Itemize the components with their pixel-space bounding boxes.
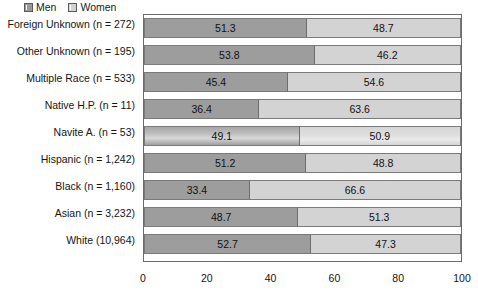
bar-segment-women[interactable]: 47.3: [311, 234, 461, 254]
bar-segment-women[interactable]: 48.8: [306, 153, 461, 173]
x-tick-0: 0: [140, 272, 146, 284]
bar-segment-women[interactable]: 66.6: [250, 180, 461, 200]
bar-segment-men[interactable]: 53.8: [144, 45, 315, 65]
legend-entry-women: Women: [68, 2, 116, 13]
legend-swatch-women-icon: [68, 3, 77, 12]
table-row: 51.3 48.7: [144, 18, 461, 38]
bar-segment-men[interactable]: 48.7: [144, 207, 298, 227]
category-label-white: White (10,964): [0, 235, 135, 246]
x-tick-60: 60: [329, 272, 341, 284]
category-label-other-unknown: Other Unknown (n = 195): [0, 46, 135, 57]
bar-segment-men[interactable]: 52.7: [144, 234, 311, 254]
table-row: 49.1 50.9: [144, 126, 461, 146]
bar-segment-men[interactable]: 36.4: [144, 99, 259, 119]
bar-segment-women[interactable]: 51.3: [298, 207, 461, 227]
x-tick-100: 100: [453, 272, 471, 284]
category-label-foreign-unknown: Foreign Unknown (n = 272): [0, 19, 135, 30]
table-row: 33.4 66.6: [144, 180, 461, 200]
bar-segment-women[interactable]: 63.6: [259, 99, 461, 119]
stacked-bar-chart: Men Women Foreign Unknown (n = 272) Othe…: [0, 0, 478, 294]
x-axis: 0 20 40 60 80 100: [143, 264, 462, 290]
category-label-native-hp: Native H.P. (n = 11): [0, 100, 135, 111]
x-tick-80: 80: [392, 272, 404, 284]
category-label-hispanic: Hispanic (n = 1,242): [0, 154, 135, 165]
legend-swatch-men-icon: [24, 3, 33, 12]
table-row: 48.7 51.3: [144, 207, 461, 227]
legend-label-men: Men: [36, 2, 56, 13]
bar-segment-men[interactable]: 51.2: [144, 153, 306, 173]
x-tick-20: 20: [201, 272, 213, 284]
category-label-multiple-race: Multiple Race (n = 533): [0, 73, 135, 84]
table-row: 36.4 63.6: [144, 99, 461, 119]
category-label-black: Black (n = 1,160): [0, 181, 135, 192]
chart-legend: Men Women: [24, 2, 116, 13]
table-row: 51.2 48.8: [144, 153, 461, 173]
bars-container: 51.3 48.7 53.8 46.2 45.4 54.6 36.4 63.6 …: [144, 15, 461, 261]
bar-segment-men[interactable]: 45.4: [144, 72, 288, 92]
category-label-navite-a: Navite A. (n = 53): [0, 127, 135, 138]
plot-area: 51.3 48.7 53.8 46.2 45.4 54.6 36.4 63.6 …: [143, 14, 462, 262]
table-row: 45.4 54.6: [144, 72, 461, 92]
category-axis-labels: Foreign Unknown (n = 272) Other Unknown …: [0, 14, 139, 262]
bar-segment-women[interactable]: 50.9: [300, 126, 461, 146]
table-row: 52.7 47.3: [144, 234, 461, 254]
bar-segment-men[interactable]: 49.1: [144, 126, 300, 146]
bar-segment-women[interactable]: 54.6: [288, 72, 461, 92]
table-row: 53.8 46.2: [144, 45, 461, 65]
bar-segment-men[interactable]: 51.3: [144, 18, 307, 38]
x-tick-40: 40: [265, 272, 277, 284]
bar-segment-women[interactable]: 46.2: [315, 45, 461, 65]
legend-label-women: Women: [80, 2, 116, 13]
bar-segment-women[interactable]: 48.7: [307, 18, 461, 38]
bar-segment-men[interactable]: 33.4: [144, 180, 250, 200]
legend-entry-men: Men: [24, 2, 56, 13]
category-label-asian: Asian (n = 3,232): [0, 208, 135, 219]
